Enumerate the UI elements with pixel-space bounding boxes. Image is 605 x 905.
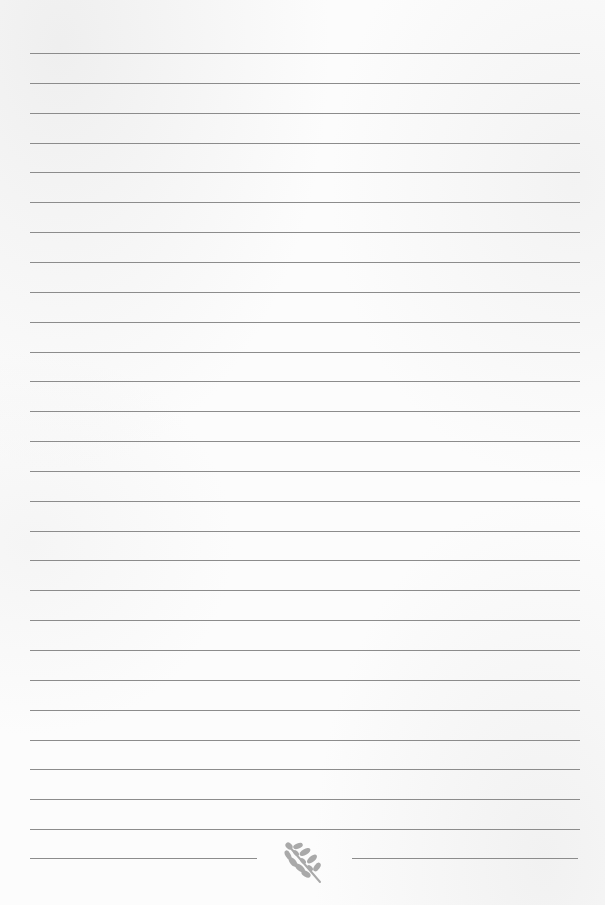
ruled-line	[30, 769, 580, 770]
lined-paper-page	[0, 0, 605, 905]
ruled-line	[30, 471, 580, 472]
ruled-line	[30, 501, 580, 502]
footer-rule-left	[30, 858, 257, 859]
ruled-line	[30, 232, 580, 233]
ruled-line	[30, 53, 580, 54]
ruled-line	[30, 650, 580, 651]
ruled-line	[30, 83, 580, 84]
ruled-line	[30, 799, 580, 800]
ruled-line	[30, 411, 580, 412]
ruled-line	[30, 322, 580, 323]
ruled-line	[30, 441, 580, 442]
ruled-line	[30, 381, 580, 382]
ruled-line	[30, 352, 580, 353]
ruled-line	[30, 829, 580, 830]
footer-rule-right	[352, 858, 578, 859]
ruled-line	[30, 531, 580, 532]
ruled-line	[30, 292, 580, 293]
ruled-line	[30, 710, 580, 711]
ruled-line	[30, 262, 580, 263]
leaf-icon	[282, 840, 326, 886]
ruled-line	[30, 560, 580, 561]
ruled-line	[30, 202, 580, 203]
ruled-line	[30, 680, 580, 681]
ruled-line	[30, 590, 580, 591]
ruled-line	[30, 740, 580, 741]
ruled-line	[30, 113, 580, 114]
ruled-line	[30, 143, 580, 144]
ruled-line	[30, 172, 580, 173]
ruled-line	[30, 620, 580, 621]
